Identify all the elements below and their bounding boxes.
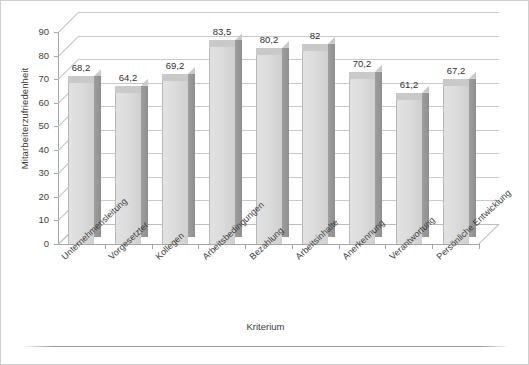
chart-figure-frame: 9080706050403020100 68,264,269,283,580,2… (0, 0, 529, 365)
bar-column (443, 1, 476, 244)
x-axis-title: Kriterium (1, 321, 529, 332)
chart-plot-area: 9080706050403020100 68,264,269,283,580,2… (1, 1, 529, 365)
bar-front-face (302, 51, 328, 244)
bar-top-face (302, 44, 328, 51)
bar-column (162, 1, 195, 244)
bar-top-face (256, 48, 282, 55)
bar-top-face (396, 93, 422, 100)
y-tick-label: 0 (25, 239, 49, 248)
bar-side-face (188, 74, 195, 237)
bar-top-face (115, 86, 141, 93)
bar-value-label: 61,2 (379, 80, 439, 90)
x-tick-mark (339, 244, 340, 249)
bar-value-label: 70,2 (332, 59, 392, 69)
bar-column (68, 1, 101, 244)
bar-front-face (68, 83, 94, 244)
bar-top-face (68, 76, 94, 83)
x-tick-mark (105, 244, 106, 249)
x-tick-mark (198, 244, 199, 249)
y-tick-label: 10 (25, 215, 49, 224)
bar-side-face (235, 40, 242, 237)
bar-side-face (141, 86, 148, 237)
bar-front-face (209, 47, 235, 244)
bar-side-face (94, 76, 101, 237)
bar-top-face (349, 72, 375, 79)
x-tick-mark (152, 244, 153, 249)
bar-front-face (396, 100, 422, 244)
bar-top-face (443, 79, 469, 86)
bar-side-face (375, 72, 382, 237)
bar-side-face (328, 44, 335, 237)
y-axis-title: Mitarbeiterzufriedenheit (19, 34, 30, 204)
bar-side-face (282, 48, 289, 237)
bar-column (349, 1, 382, 244)
bar-column (396, 1, 429, 244)
x-tick-mark (385, 244, 386, 249)
floor-right-edge (478, 224, 500, 245)
bar-side-face (469, 79, 476, 237)
bar-value-label: 82 (285, 31, 345, 41)
bar-top-face (209, 40, 235, 47)
x-tick-mark (245, 244, 246, 249)
bar-front-face (443, 86, 469, 244)
bar-front-face (256, 55, 282, 244)
x-tick-mark (479, 244, 480, 249)
bar-front-face (162, 81, 188, 244)
bar-top-face (162, 74, 188, 81)
bar-value-label: 67,2 (426, 66, 486, 76)
bar-value-label: 64,2 (98, 73, 158, 83)
bar-value-label: 69,2 (145, 61, 205, 71)
bar-front-face (349, 79, 375, 244)
footer-rule (23, 346, 509, 347)
x-tick-mark (432, 244, 433, 249)
bar-front-face (115, 93, 141, 244)
x-tick-mark (292, 244, 293, 249)
bar-column (209, 1, 242, 244)
